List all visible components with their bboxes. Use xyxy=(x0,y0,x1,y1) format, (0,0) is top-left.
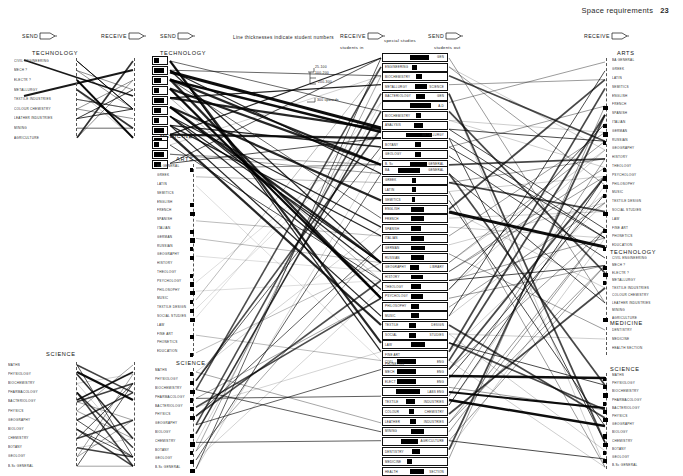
list-item[interactable]: BOTANY xyxy=(155,445,191,454)
bar-row[interactable] xyxy=(152,150,168,159)
list-item[interactable]: GEOGRAPHY xyxy=(612,144,678,153)
list-item[interactable]: THEOLOGY xyxy=(157,268,191,277)
list-item[interactable]: SEMITICS xyxy=(157,188,191,197)
list-item[interactable]: ENGLISH xyxy=(612,91,678,100)
list-item[interactable]: LAW xyxy=(157,320,191,329)
bar-row[interactable]: SEMITICS xyxy=(382,195,448,204)
bar-row[interactable]: BIOCHEMISTRY xyxy=(382,72,448,81)
list-item[interactable]: ELECTR ? xyxy=(612,269,680,277)
list-item[interactable]: B.Sc GENERAL xyxy=(612,461,678,469)
list-item[interactable]: MUSIC xyxy=(157,294,191,303)
bar-row[interactable]: LABS ENG xyxy=(382,387,448,396)
bar-row[interactable]: GREEK xyxy=(382,176,448,185)
list-item[interactable]: PHONETICS xyxy=(612,232,678,241)
bar-row[interactable]: BAGENERAL xyxy=(382,166,448,175)
list-item[interactable]: SPANISH xyxy=(612,109,678,118)
bar-row[interactable]: MINING xyxy=(382,427,448,436)
bar-row[interactable] xyxy=(152,86,168,95)
bar-row[interactable]: BOTANY xyxy=(382,140,448,149)
bar-row[interactable]: THEOLOGY xyxy=(382,282,448,291)
bar-row[interactable]: DENTISTRY xyxy=(382,447,448,456)
bar-row[interactable]: LATIN xyxy=(382,185,448,194)
bar-row[interactable]: GERMAN xyxy=(382,244,448,253)
list-item[interactable]: RUSSIAN xyxy=(612,135,678,144)
bar-row[interactable]: RUSSIAN xyxy=(382,253,448,262)
bar-row[interactable]: FRENCH xyxy=(382,214,448,223)
list-item[interactable]: BOTANY xyxy=(612,445,678,453)
list-item[interactable]: RUSSIAN xyxy=(157,241,191,250)
list-item[interactable]: DENTISTRY xyxy=(612,325,678,334)
bar-row[interactable]: TEXTILEDESIGN xyxy=(382,321,448,330)
list-item[interactable]: GERMAN xyxy=(612,126,678,135)
bar-row[interactable]: GEOGRAPHYLIBRARY xyxy=(382,263,448,272)
list-item[interactable]: MECH ? xyxy=(14,66,74,76)
list-item[interactable]: BACTERIOLOGY xyxy=(8,397,74,406)
list-item[interactable]: ITALIAN xyxy=(612,118,678,127)
list-item[interactable]: BIOLOGY xyxy=(612,428,678,436)
list-item[interactable]: PHILOSOPHY xyxy=(157,285,191,294)
list-item[interactable]: LAW xyxy=(612,214,678,223)
list-item[interactable]: CIVIL ENGINEERING xyxy=(14,56,74,66)
list-item[interactable]: MINING xyxy=(612,307,680,315)
list-item[interactable]: AGRICULTURE xyxy=(14,133,74,143)
list-item[interactable]: LATIN xyxy=(612,74,678,83)
list-item[interactable]: METALLURGY xyxy=(14,85,74,95)
list-item[interactable]: TEXTILE INDUSTRIES xyxy=(14,94,74,104)
list-item[interactable]: GERMAN xyxy=(157,232,191,241)
bar-row[interactable]: LAW xyxy=(382,340,448,349)
list-item[interactable]: SPANISH xyxy=(157,215,191,224)
bar-row[interactable]: METALLURGYSCIENCE xyxy=(382,82,448,91)
list-item[interactable]: FINE ART xyxy=(157,329,191,338)
bar-row[interactable] xyxy=(152,116,168,125)
list-item[interactable]: SEMITICS xyxy=(612,82,678,91)
list-item[interactable]: MATHS xyxy=(155,366,191,375)
list-item[interactable]: BIOLOGY xyxy=(155,428,191,437)
bar-row[interactable]: BACTERIOLOGYGEN xyxy=(382,92,448,101)
list-item[interactable]: HEALTH SECTION xyxy=(612,343,678,352)
bar-row[interactable]: ITALIAN xyxy=(382,234,448,243)
bar-row[interactable]: GEN xyxy=(382,53,448,62)
bar-row[interactable]: ENGLISH xyxy=(382,205,448,214)
list-item[interactable]: CHEMISTRY xyxy=(8,434,74,443)
list-item[interactable]: MECH ? xyxy=(612,262,680,270)
list-item[interactable]: PHARMACOLOGY xyxy=(612,396,678,404)
list-item[interactable]: FRENCH xyxy=(612,100,678,109)
list-item[interactable]: BIOCHEMISTRY xyxy=(155,384,191,393)
bar-row[interactable]: PHILOSOPHY xyxy=(382,302,448,311)
list-item[interactable]: COLOUR CHEMISTRY xyxy=(612,292,680,300)
list-item[interactable]: PHYSICS xyxy=(612,412,678,420)
list-item[interactable]: LEATHER INDUSTRIES xyxy=(612,299,680,307)
list-item[interactable]: BACTERIOLOGY xyxy=(155,401,191,410)
list-item[interactable]: B.Sc GENERAL xyxy=(155,463,191,472)
bar-row[interactable]: SPANISH xyxy=(382,224,448,233)
list-item[interactable]: EDUCATION xyxy=(612,241,678,250)
bar-row[interactable]: PSYCHOLOGY xyxy=(382,292,448,301)
bar-row[interactable]: SOCIALSTUDIES xyxy=(382,331,448,340)
list-item[interactable]: CHEMISTRY xyxy=(612,437,678,445)
list-item[interactable]: PHYSIOLOGY xyxy=(8,369,74,378)
bar-row[interactable]: A-D xyxy=(382,101,448,110)
bar-row[interactable]: ELECTENG xyxy=(382,377,448,386)
list-item[interactable]: GEOGRAPHY xyxy=(155,419,191,428)
list-item[interactable]: GEOGRAPHY xyxy=(8,415,74,424)
list-item[interactable]: SOCIAL STUDIES xyxy=(612,206,678,215)
list-item[interactable]: BA GENERAL xyxy=(157,162,191,171)
list-item[interactable]: SOCIAL STUDIES xyxy=(157,312,191,321)
bar-row[interactable] xyxy=(152,140,168,149)
list-item[interactable]: METALLURGY xyxy=(612,277,680,285)
list-item[interactable]: ENGLISH xyxy=(157,197,191,206)
list-item[interactable]: LATIN xyxy=(157,180,191,189)
list-item[interactable]: ELECTR ? xyxy=(14,75,74,85)
bar-row[interactable] xyxy=(152,106,168,115)
bar-row[interactable] xyxy=(152,96,168,105)
list-item[interactable]: MATHS xyxy=(612,371,678,379)
list-item[interactable]: GREEK xyxy=(612,65,678,74)
list-item[interactable]: GREEK xyxy=(157,171,191,180)
bar-row[interactable]: HEALTHSECTION xyxy=(382,467,448,476)
list-item[interactable]: TEXTILE DESIGN xyxy=(612,197,678,206)
list-item[interactable]: MUSIC xyxy=(612,188,678,197)
bar-row[interactable]: MECHENG xyxy=(382,367,448,376)
list-item[interactable]: THEOLOGY xyxy=(612,162,678,171)
bar-row[interactable]: TEXTILEINDUSTRIES xyxy=(382,397,448,406)
bar-row[interactable] xyxy=(152,66,168,75)
